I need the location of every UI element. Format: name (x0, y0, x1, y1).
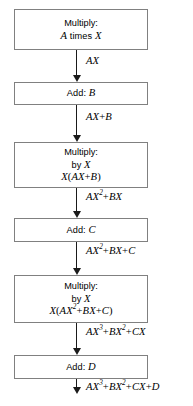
variable-x: X (66, 305, 73, 316)
edge-label-ax2-plus-bx: AX2+BX (86, 191, 122, 202)
variable-x: X (139, 381, 146, 392)
variable-c: C (102, 305, 109, 316)
arrow-head-icon (73, 348, 81, 355)
add-word: Add: (66, 225, 88, 235)
variable-a: A (86, 55, 93, 66)
node-add-c: Add: C (14, 218, 148, 242)
variable-c: C (128, 245, 135, 256)
connector-arrow-1 (76, 50, 78, 82)
variable-a: A (86, 326, 93, 337)
node-add-d: Add: D (14, 355, 148, 379)
variable-c: C (132, 381, 139, 392)
node-line-formula: A times X (61, 30, 102, 42)
arrow-head-icon (73, 268, 81, 275)
variable-x: X (78, 171, 85, 182)
node-line-primary: Multiply: (64, 17, 98, 29)
node-line-primary: Multiply: (64, 280, 98, 292)
edge-label-ax-plus-b: AX+B (86, 111, 112, 122)
variable-x: X (116, 191, 123, 202)
variable-x: X (49, 305, 56, 316)
arrow-head-icon (73, 211, 81, 218)
variable-x: X (93, 55, 100, 66)
node-line-formula: X(AX+B) (61, 171, 101, 183)
node-line-formula: X(AX2+BX+C) (49, 305, 112, 317)
node-add-b: Add: B (14, 82, 148, 105)
arrow-stem (76, 50, 77, 75)
arrow-head-icon (73, 75, 81, 82)
variable-d: D (152, 381, 160, 392)
connector-arrow-6 (76, 379, 78, 399)
variable-a: A (86, 111, 93, 122)
edge-label-ax2-plus-bx-plus-c: AX2+BX+C (86, 245, 135, 256)
variable-a: A (71, 171, 78, 182)
connector-arrow-5 (76, 323, 78, 355)
variable-a: A (86, 245, 93, 256)
variable-c: C (88, 224, 95, 235)
arrow-head-icon (73, 135, 81, 142)
node-multiply-a-times-x: Multiply: A times X (14, 9, 148, 50)
paren-close: ) (109, 305, 113, 316)
node-label: Add: B (67, 87, 96, 99)
variable-b: B (105, 111, 112, 122)
arrow-stem (76, 379, 77, 387)
variable-x: X (89, 305, 96, 316)
add-word: Add: (67, 88, 89, 98)
variable-b: B (109, 245, 116, 256)
arrow-stem (76, 105, 77, 135)
node-label: Add: C (66, 224, 95, 236)
variable-x: X (139, 326, 146, 337)
connector-arrow-2 (76, 105, 78, 142)
variable-x: X (84, 159, 91, 170)
arrow-head-icon (73, 387, 81, 394)
times-word: times (67, 31, 95, 41)
connector-arrow-4 (76, 242, 78, 275)
node-label: Add: D (66, 361, 96, 373)
connector-arrow-3 (76, 188, 78, 218)
arrow-stem (76, 323, 77, 348)
add-word: Add: (66, 362, 88, 372)
variable-c: C (132, 326, 139, 337)
variable-b: B (89, 87, 96, 98)
node-line-primary: Multiply: (64, 146, 98, 158)
edge-label-ax3-plus-bx2-plus-cx: AX3+BX2+CX (86, 326, 146, 337)
node-line-by-x: by X (71, 159, 90, 171)
flowchart-diagram: Multiply: A times X AX Add: B AX+B Multi… (0, 0, 193, 406)
arrow-stem (76, 242, 77, 268)
variable-x: X (84, 293, 91, 304)
variable-b: B (109, 381, 116, 392)
node-multiply-by-x-1: Multiply: by X X(AX+B) (14, 142, 148, 188)
arrow-stem (76, 188, 77, 211)
variable-x: X (61, 171, 68, 182)
edge-label-ax: AX (86, 55, 99, 66)
paren-close: ) (97, 171, 101, 182)
variable-d: D (88, 361, 96, 372)
variable-b: B (109, 191, 116, 202)
variable-a: A (86, 381, 93, 392)
edge-label-result: AX3+BX2+CX+D (86, 381, 159, 392)
by-word: by (71, 160, 84, 170)
variable-x: X (95, 30, 102, 41)
variable-a: A (86, 191, 93, 202)
variable-b: B (109, 326, 116, 337)
by-word: by (71, 294, 84, 304)
node-multiply-by-x-2: Multiply: by X X(AX2+BX+C) (14, 275, 148, 323)
